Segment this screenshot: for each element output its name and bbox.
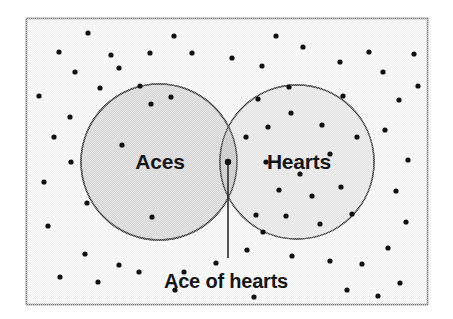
element-dot [327, 258, 332, 263]
element-dot [300, 44, 305, 49]
element-dot [411, 51, 416, 56]
element-dot [36, 93, 41, 98]
element-dot [108, 52, 113, 57]
element-dot [337, 59, 342, 64]
element-dot [136, 269, 141, 274]
element-dot [229, 55, 234, 60]
element-dot [366, 49, 371, 54]
element-dot [244, 247, 249, 252]
element-dot [213, 260, 218, 265]
element-dot [415, 83, 420, 88]
element-dot [283, 213, 288, 218]
element-dot [273, 33, 278, 38]
element-dot [95, 279, 100, 284]
element-dot [359, 261, 364, 266]
element-dot [119, 142, 124, 147]
element-dot [397, 280, 402, 285]
element-dot [382, 127, 387, 132]
element-dot [243, 134, 248, 139]
element-dot [340, 93, 345, 98]
element-dot [393, 188, 398, 193]
element-dot [255, 96, 260, 101]
element-dot [276, 187, 281, 192]
set-label-aces: Aces [135, 150, 184, 173]
element-dot [68, 159, 73, 164]
element-dot [405, 157, 410, 162]
element-dot [56, 49, 61, 54]
element-dot [317, 221, 322, 226]
element-dot [288, 110, 293, 115]
venn-diagram-canvas: Aces Hearts Ace of hearts [0, 0, 453, 319]
element-dot [349, 211, 354, 216]
intersection-marker-dot [225, 159, 231, 165]
element-dot [84, 200, 89, 205]
element-dot [51, 134, 56, 139]
element-dot [251, 294, 256, 299]
element-dot [354, 134, 359, 139]
element-dot [97, 85, 102, 90]
element-dot [168, 94, 173, 99]
element-dot [403, 219, 408, 224]
element-dot [72, 69, 77, 74]
element-dot [380, 69, 385, 74]
element-dot [344, 287, 349, 292]
element-dot [148, 101, 153, 106]
element-dot [85, 30, 90, 35]
element-dot [259, 63, 264, 68]
element-dot [289, 253, 294, 258]
element-dot [116, 262, 121, 267]
element-dot [396, 97, 401, 102]
element-dot [286, 84, 291, 89]
element-dot [82, 251, 87, 256]
venn-diagram-figure: Aces Hearts Ace of hearts [0, 0, 453, 319]
element-dot [149, 214, 154, 219]
element-dot [309, 193, 314, 198]
element-dot [41, 179, 46, 184]
element-dot [171, 33, 176, 38]
element-dot [57, 274, 62, 279]
element-dot [253, 212, 258, 217]
element-dot [319, 122, 324, 127]
element-dot [45, 223, 50, 228]
element-dot [189, 50, 194, 55]
element-dot [147, 50, 152, 55]
element-dot [116, 65, 121, 70]
element-dot [137, 83, 142, 88]
element-dot [67, 114, 72, 119]
intersection-caption: Ace of hearts [164, 270, 288, 292]
set-label-hearts: Hearts [267, 150, 331, 173]
element-dot [265, 124, 270, 129]
element-dot [375, 293, 380, 298]
element-dot [338, 184, 343, 189]
element-dot [385, 245, 390, 250]
element-dot [260, 229, 265, 234]
